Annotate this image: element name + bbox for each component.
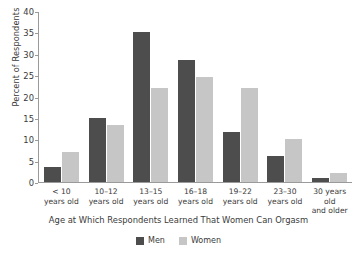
bar-group	[128, 11, 173, 182]
bar-women[interactable]	[285, 139, 302, 182]
bar-group	[263, 11, 308, 182]
bar-women[interactable]	[330, 173, 347, 182]
y-tick-label: 25	[23, 71, 34, 81]
bar-women[interactable]	[107, 125, 124, 182]
legend-entry-women[interactable]: Women	[179, 236, 221, 245]
x-tick-label: 13–15years old	[128, 187, 173, 216]
y-tick-mark	[35, 119, 38, 120]
x-tick-label: 10–12years old	[84, 187, 129, 216]
y-tick-label: 20	[23, 93, 34, 103]
bar-chart: Percent of Respondents 0510152025303540 …	[0, 0, 357, 255]
bar-group	[39, 11, 84, 182]
y-tick-label: 5	[29, 157, 34, 167]
bar-group	[218, 11, 263, 182]
bar-group	[307, 11, 352, 182]
x-tick-label: 30 years oldand older	[307, 187, 352, 216]
bar-group	[84, 11, 129, 182]
legend-label: Men	[148, 236, 165, 245]
y-tick-label: 15	[23, 114, 34, 124]
bar-men[interactable]	[312, 178, 329, 182]
y-tick-label: 30	[23, 50, 34, 60]
legend-label: Women	[191, 236, 221, 245]
x-tick-label: 19–22years old	[218, 187, 263, 216]
bar-men[interactable]	[133, 32, 150, 182]
y-tick-label: 10	[23, 135, 34, 145]
y-tick-mark	[35, 183, 38, 184]
y-tick-mark	[35, 140, 38, 141]
x-tick-label: 16–18years old	[173, 187, 218, 216]
bar-women[interactable]	[151, 88, 168, 182]
plot-area: 0510152025303540	[38, 12, 352, 183]
bar-women[interactable]	[241, 88, 258, 182]
y-axis-title: Percent of Respondents	[11, 0, 21, 127]
legend: MenWomen	[0, 236, 357, 245]
y-tick-mark	[35, 55, 38, 56]
legend-swatch-icon	[136, 237, 144, 245]
bar-group	[173, 11, 218, 182]
legend-entry-men[interactable]: Men	[136, 236, 165, 245]
bar-men[interactable]	[223, 132, 240, 182]
bar-women[interactable]	[196, 77, 213, 182]
y-tick-mark	[35, 76, 38, 77]
x-axis-tick-labels: < 10years old10–12years old13–15years ol…	[39, 187, 352, 216]
y-tick-mark	[35, 33, 38, 34]
y-tick-label: 40	[23, 7, 34, 17]
bar-men[interactable]	[44, 167, 61, 182]
y-tick-mark	[35, 162, 38, 163]
y-tick-mark	[35, 12, 38, 13]
legend-swatch-icon	[179, 237, 187, 245]
y-tick-label: 0	[29, 178, 34, 188]
x-tick-label: 23–30years old	[263, 187, 308, 216]
x-axis-title: Age at Which Respondents Learned That Wo…	[0, 215, 357, 225]
x-tick-label: < 10years old	[39, 187, 84, 216]
bar-men[interactable]	[178, 60, 195, 182]
bar-women[interactable]	[62, 152, 79, 182]
bar-groups	[39, 11, 352, 182]
bar-men[interactable]	[89, 118, 106, 182]
bar-men[interactable]	[267, 156, 284, 182]
y-tick-label: 35	[23, 28, 34, 38]
y-tick-mark	[35, 98, 38, 99]
x-axis-line	[38, 182, 352, 183]
